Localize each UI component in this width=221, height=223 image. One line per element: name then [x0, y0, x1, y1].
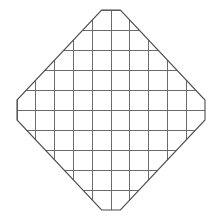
figure-canvas [0, 0, 221, 223]
octagon-grid-svg [0, 0, 221, 223]
